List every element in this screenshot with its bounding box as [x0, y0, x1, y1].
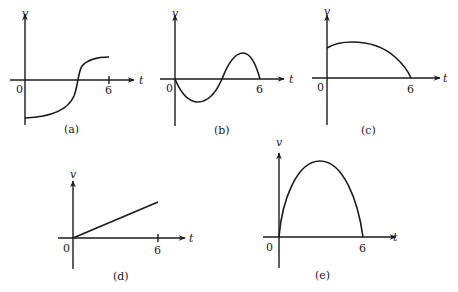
- v-label: v: [22, 7, 29, 20]
- caption-c: (c): [361, 124, 376, 137]
- v-label: v: [324, 5, 331, 18]
- caption-a: (a): [64, 123, 79, 136]
- curve-a: [25, 57, 109, 118]
- caption-d: (d): [113, 270, 129, 283]
- graph-a: v t 0 6 (a): [10, 7, 144, 136]
- tick-label-6: 6: [154, 244, 161, 257]
- v-label: v: [70, 168, 77, 181]
- graph-e: v t 0 6 (e): [263, 136, 398, 282]
- origin-label: 0: [16, 83, 23, 96]
- caption-b: (b): [214, 124, 230, 137]
- origin-label: 0: [317, 81, 324, 94]
- t-label: t: [289, 73, 294, 86]
- tick-label-6: 6: [359, 242, 366, 255]
- figure-canvas: v t 0 6 (a) v t 0 6 (b) v t 0 6 (c) v t …: [0, 0, 458, 292]
- graph-b: v t 0 6 (b): [160, 7, 294, 137]
- curve-e: [279, 161, 363, 237]
- tick-label-6: 6: [256, 83, 263, 96]
- curve-b: [175, 53, 260, 102]
- graph-d: v t 0 6 (d): [58, 168, 194, 283]
- curve-d: [73, 202, 158, 238]
- caption-e: (e): [315, 269, 330, 282]
- t-label: t: [393, 231, 398, 244]
- tick-label-6: 6: [105, 84, 112, 97]
- tick-label-6: 6: [407, 83, 414, 96]
- v-label: v: [276, 136, 283, 149]
- v-label: v: [172, 7, 179, 20]
- graph-c: v t 0 6 (c): [312, 5, 448, 137]
- t-label: t: [443, 72, 448, 85]
- curve-c: [327, 42, 411, 78]
- origin-label: 0: [63, 242, 70, 255]
- t-label: t: [139, 74, 144, 87]
- origin-label: 0: [166, 82, 173, 95]
- origin-label: 0: [266, 241, 273, 254]
- t-label: t: [189, 232, 194, 245]
